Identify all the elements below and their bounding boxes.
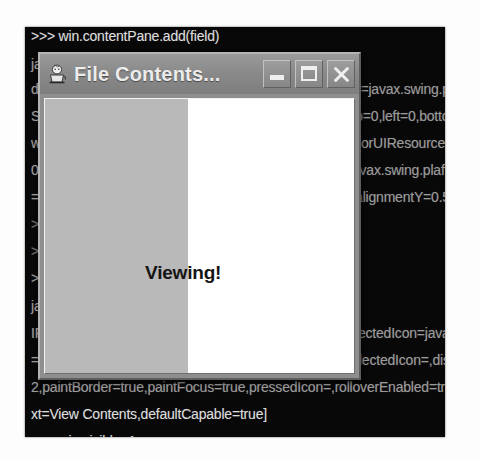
left-gray-panel[interactable] <box>45 99 188 373</box>
maximize-button[interactable] <box>295 60 323 88</box>
scanned-page-backdrop: >>> win.contentPane.add(field)javax.swin… <box>0 0 479 460</box>
java-duke-icon <box>46 63 68 85</box>
file-contents-dialog[interactable]: File Contents... Viewing! <box>38 52 361 380</box>
close-button[interactable] <box>327 60 355 88</box>
viewing-label: Viewing! <box>145 262 221 284</box>
right-white-panel[interactable] <box>188 99 354 373</box>
close-icon <box>328 61 354 87</box>
console-line: >>> win.visible=1 <box>31 434 136 437</box>
minimize-button[interactable] <box>263 60 291 88</box>
dialog-content-pane: Viewing! <box>44 98 355 374</box>
console-line: 2,paintBorder=true,paintFocus=true,press… <box>31 380 445 395</box>
minimize-icon <box>270 75 284 80</box>
maximize-icon <box>301 66 317 81</box>
dialog-title: File Contents... <box>74 63 259 86</box>
console-line: xt=View Contents,defaultCapable=true] <box>31 407 267 422</box>
console-line: >>> win.contentPane.add(field) <box>31 29 219 44</box>
dialog-titlebar[interactable]: File Contents... <box>40 54 359 94</box>
